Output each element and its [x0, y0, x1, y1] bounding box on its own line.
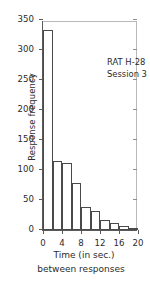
x-tick: 12: [100, 230, 101, 234]
y-tick-right: [133, 109, 137, 110]
x-tick-label: 16: [114, 238, 125, 248]
y-tick-right: [133, 139, 137, 140]
y-tick-label: 300: [18, 44, 34, 54]
series-annotation: RAT H-28 Session 3: [107, 57, 147, 80]
x-tick: 0: [43, 230, 44, 234]
histogram-bar: [43, 30, 53, 230]
y-tick-right: [133, 49, 137, 50]
y-tick: 350: [39, 19, 43, 20]
histogram-figure: Response frequency 050100150200250300350…: [0, 0, 150, 290]
x-tick: 20: [138, 230, 139, 234]
x-axis-subtitle: between responses: [0, 264, 150, 274]
histogram-bar: [53, 161, 63, 230]
y-tick-label: 350: [18, 14, 34, 24]
annotation-line-1: RAT H-28: [107, 57, 147, 69]
x-tick-label: 12: [95, 238, 106, 248]
histogram-bar: [129, 228, 139, 230]
plot-area: 050100150200250300350 048121620 RAT H-28…: [42, 21, 137, 231]
x-tick-label: 20: [133, 238, 144, 248]
y-tick-label: 150: [18, 134, 34, 144]
x-tick-label: 0: [40, 238, 45, 248]
x-tick: 4: [62, 230, 63, 234]
histogram-bar: [110, 223, 120, 230]
x-tick-label: 8: [78, 238, 83, 248]
y-tick-right: [133, 19, 137, 20]
y-tick-label: 100: [18, 164, 34, 174]
y-tick-label: 250: [18, 74, 34, 84]
y-tick-label: 50: [23, 194, 34, 204]
histogram-bar: [81, 207, 91, 230]
y-tick-label: 200: [18, 104, 34, 114]
histogram-bar: [62, 163, 72, 230]
histogram-bar: [91, 211, 101, 230]
histogram-bar: [100, 220, 110, 230]
y-tick-label: 0: [29, 224, 34, 234]
x-tick: 8: [81, 230, 82, 234]
histogram-bar: [72, 183, 82, 230]
plot-frame-top: [43, 21, 137, 22]
histogram-bar: [119, 226, 129, 230]
x-tick: 16: [119, 230, 120, 234]
x-tick-label: 4: [59, 238, 64, 248]
y-tick-right: [133, 199, 137, 200]
y-tick-right: [133, 169, 137, 170]
annotation-line-2: Session 3: [107, 69, 147, 81]
x-axis-title: Time (in sec.): [0, 250, 150, 260]
